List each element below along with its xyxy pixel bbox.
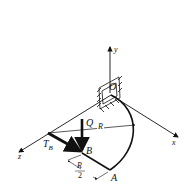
mechanics-diagram bbox=[0, 0, 191, 190]
half-radius-ext1 bbox=[68, 155, 81, 160]
curved-bar bbox=[110, 95, 133, 170]
x-axis-label: x bbox=[172, 139, 176, 147]
point-b-label: B bbox=[86, 146, 92, 156]
origin-label: O bbox=[109, 82, 116, 92]
half-radius-dim-b bbox=[93, 177, 97, 179]
diagram-canvas: y x z O Q TB B A R R 2 bbox=[0, 0, 191, 190]
point-a-label: A bbox=[111, 173, 117, 183]
z-axis-label: z bbox=[18, 153, 21, 161]
y-axis-label: y bbox=[114, 46, 118, 54]
force-q-label: Q bbox=[86, 118, 93, 128]
radius-label: R bbox=[97, 123, 104, 131]
half-radius-denominator: 2 bbox=[78, 172, 82, 180]
torque-label-sub: B bbox=[49, 144, 53, 152]
torque-label: TB bbox=[43, 139, 53, 152]
half-radius-numerator: R bbox=[77, 162, 82, 170]
